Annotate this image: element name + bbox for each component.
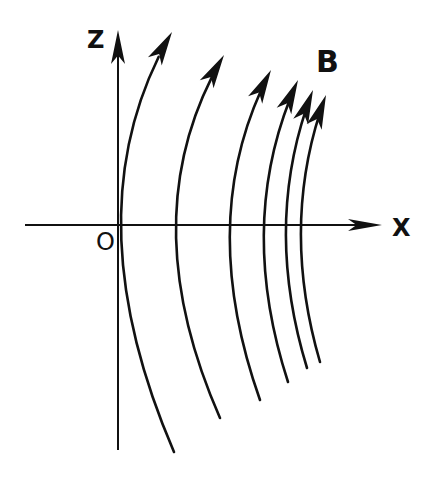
diagram-svg xyxy=(0,0,435,483)
field-label-b: B xyxy=(316,44,339,79)
field-line-3 xyxy=(230,90,261,400)
field-line-2 xyxy=(176,77,220,418)
field-line-arrow-icon xyxy=(248,70,271,104)
z-axis-label: Z xyxy=(87,26,104,54)
field-line-arrow-icon xyxy=(148,32,172,65)
field-line-5 xyxy=(286,108,307,368)
origin-label: O xyxy=(96,228,115,256)
field-line-arrow-icon xyxy=(200,55,224,88)
field-lines xyxy=(121,32,326,452)
field-line-1 xyxy=(121,57,174,452)
field-line-6 xyxy=(301,113,320,362)
x-axis xyxy=(25,219,382,231)
magnetic-field-diagram: Z X O B xyxy=(0,0,435,483)
x-axis-label: X xyxy=(392,214,411,242)
